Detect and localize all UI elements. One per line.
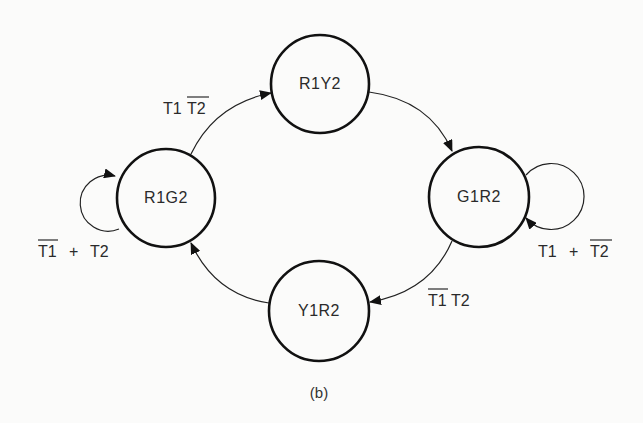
label-g1r2-self-loop: T1 + T2	[538, 240, 612, 260]
label-plus: +	[569, 243, 578, 260]
self-loop-g1r2-arc	[526, 164, 584, 230]
label-term-t2: T2	[90, 243, 109, 260]
label-term-t1-negated: T1	[38, 243, 57, 260]
state-r1y2: R1Y2	[271, 35, 369, 133]
state-g1r2: G1R2	[429, 147, 529, 247]
figure-caption: (b)	[310, 384, 328, 401]
label-r1g2-to-r1y2: T1 T2	[163, 97, 209, 117]
label-term-t1: T1	[538, 243, 557, 260]
self-loop-r1g2	[80, 175, 119, 231]
label-plus: +	[69, 243, 78, 260]
state-y1r2-label: Y1R2	[298, 302, 340, 319]
self-loop-r1g2-arc	[80, 175, 119, 231]
edge-r1y2-to-g1r2	[369, 92, 452, 151]
label-term-t2-negated: T2	[590, 243, 609, 260]
state-r1g2-label: R1G2	[144, 189, 188, 206]
state-diagram: R1G2 R1Y2 G1R2 Y1R2 T1 T2 T1 + T2 T1 + T…	[0, 0, 643, 423]
label-term-t2: T2	[451, 292, 470, 309]
label-term-t1: T1	[163, 100, 182, 117]
self-loop-g1r2	[526, 164, 584, 230]
label-term-t1-negated: T1	[428, 292, 447, 309]
state-r1y2-label: R1Y2	[299, 75, 341, 92]
state-g1r2-label: G1R2	[457, 188, 501, 205]
label-g1r2-to-y1r2: T1 T2	[428, 289, 470, 309]
label-r1g2-self-loop: T1 + T2	[38, 240, 109, 260]
label-term-t2-negated: T2	[187, 100, 206, 117]
state-y1r2: Y1R2	[269, 261, 369, 361]
edge-y1r2-to-r1g2	[191, 243, 269, 303]
state-r1g2: R1G2	[117, 149, 215, 247]
